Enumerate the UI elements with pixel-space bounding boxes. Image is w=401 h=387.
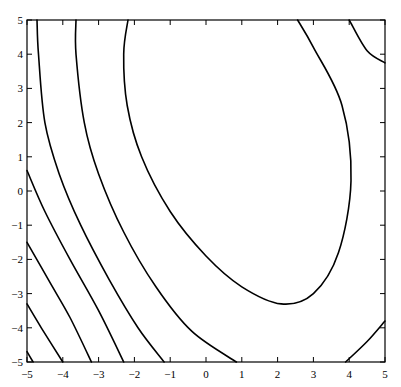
x-tick-label: −5 <box>21 368 33 380</box>
y-tick-label: −1 <box>11 219 23 231</box>
x-tick-label: −4 <box>57 368 69 380</box>
y-tick-label: −4 <box>11 322 23 334</box>
y-tick-label: −3 <box>11 288 23 300</box>
x-tick-label: 0 <box>203 368 209 380</box>
x-tick-label: 1 <box>239 368 245 380</box>
x-tick-label: −3 <box>93 368 105 380</box>
y-tick-label: 3 <box>18 82 24 94</box>
x-tick-label: 2 <box>275 368 281 380</box>
x-tick-label: −1 <box>164 368 176 380</box>
background <box>0 0 401 387</box>
x-tick-label: 3 <box>311 368 317 380</box>
y-tick-label: −2 <box>11 253 23 265</box>
y-tick-label: 4 <box>18 48 24 60</box>
contour-chart: −5−4−3−2−1012345 −5−4−3−2−1012345 <box>0 0 401 387</box>
y-tick-label: 5 <box>18 14 24 26</box>
y-tick-label: 1 <box>18 151 24 163</box>
x-tick-label: −2 <box>129 368 141 380</box>
y-tick-label: 2 <box>18 117 24 129</box>
x-tick-label: 4 <box>346 368 352 380</box>
x-tick-label: 5 <box>382 368 388 380</box>
y-tick-label: 0 <box>18 185 24 197</box>
y-tick-label: −5 <box>11 356 23 368</box>
